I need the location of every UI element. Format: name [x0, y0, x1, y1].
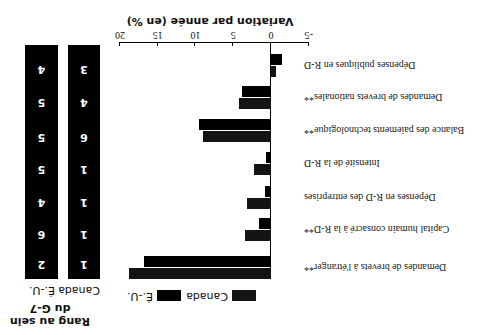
rank-title: Rang au sein du G-7	[0, 302, 100, 328]
rank-cell-canada: 1	[68, 258, 100, 271]
chart-stage: Variation par année (en %) -505101520 De…	[0, 0, 494, 335]
bar-us	[242, 86, 271, 97]
x-tick	[157, 42, 158, 46]
rank-cell-us: 4	[25, 63, 58, 76]
rank-column-canada: 1111643	[68, 45, 100, 279]
x-tick-label: -5	[299, 30, 319, 41]
x-tick	[308, 42, 309, 46]
bar-us	[199, 119, 271, 130]
legend-swatch-canada	[232, 290, 256, 301]
rank-cell-us: 2	[25, 258, 58, 271]
category-label: Balance des paiements technologique**	[304, 125, 494, 136]
bar-us	[271, 54, 282, 65]
bar-us	[266, 152, 271, 163]
bar-us	[259, 218, 271, 229]
x-tick	[232, 42, 233, 46]
x-tick-label: 5	[223, 30, 243, 41]
rank-cell-canada: 3	[68, 63, 100, 76]
x-tick-label: 20	[110, 30, 130, 41]
rank-cell-canada: 1	[68, 196, 100, 209]
chart-title: Variation par année (en %)	[100, 15, 320, 28]
rank-column-us: 2645554	[25, 45, 58, 279]
bar-us	[265, 186, 271, 197]
x-tick	[119, 42, 120, 46]
legend-label-us: É.-U.	[127, 290, 153, 303]
legend-swatch-us	[157, 290, 181, 301]
bar-canada	[129, 268, 271, 279]
category-label: Demandes de brevets nationales**	[304, 92, 494, 103]
bar-us	[144, 256, 271, 267]
bar-canada	[245, 230, 271, 241]
x-tick-label: 10	[186, 30, 206, 41]
x-axis-line	[120, 42, 309, 43]
rank-cell-us: 6	[25, 228, 58, 241]
category-label: Dépenses publiques en R-D	[304, 60, 494, 71]
rank-cell-us: 5	[25, 131, 58, 144]
rank-cell-us: 5	[25, 96, 58, 109]
legend-label-canada: Canada	[186, 290, 228, 303]
category-label: Demandes de brevets à l'étranger**	[304, 262, 494, 273]
category-label: Capital humain consacré à la R-D**	[304, 224, 494, 235]
x-tick-label: 0	[261, 30, 281, 41]
bar-canada	[203, 131, 271, 142]
rank-cell-canada: 4	[68, 96, 100, 109]
bar-canada	[271, 66, 276, 77]
bar-canada	[247, 198, 271, 209]
rank-col-label-canada: Canada	[66, 284, 100, 297]
rank-col-label-us: É.-U.	[24, 284, 60, 297]
rank-title-line1: Rang au sein	[0, 315, 100, 328]
rank-cell-canada: 1	[68, 228, 100, 241]
rank-title-line2: du G-7	[0, 302, 100, 315]
rank-cell-canada: 1	[68, 163, 100, 176]
x-tick	[195, 42, 196, 46]
bar-canada	[254, 164, 271, 175]
category-label: Intensité de la R-D	[304, 158, 494, 169]
category-label: Dépenses en R-D des entreprises	[304, 192, 494, 203]
rank-cell-canada: 6	[68, 131, 100, 144]
rank-cell-us: 4	[25, 196, 58, 209]
x-tick-label: 15	[148, 30, 168, 41]
rank-cell-us: 5	[25, 163, 58, 176]
bar-canada	[239, 98, 271, 109]
